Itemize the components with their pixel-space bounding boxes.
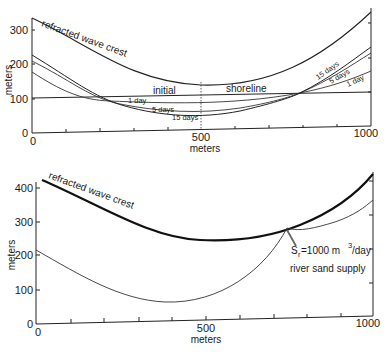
figure: 0 100 200 300 0 500 1000 meters meters r…: [0, 0, 387, 354]
top-x-tick-1000: 1000: [354, 127, 378, 139]
bottom-chart: 0 100 200 300 400 0 500 1000 meters mete…: [6, 170, 380, 345]
bottom-y-tick-0: 0: [27, 318, 33, 330]
bottom-y-tick-100: 100: [15, 284, 33, 296]
top-x-tick-500: 500: [192, 131, 210, 143]
bottom-x-tick-0: 0: [35, 326, 41, 338]
river-sand-supply-label: river sand supply: [290, 263, 366, 274]
top-5-days-label-left: 5 days: [152, 105, 174, 114]
bottom-x-tick-1000: 1000: [356, 317, 380, 329]
initial-label: initial: [153, 85, 176, 96]
top-1-day-label-left: 1 day: [128, 96, 147, 105]
top-15-days-label-left: 15 days: [172, 113, 199, 122]
top-x-tick-0: 0: [30, 135, 36, 147]
top-x-axis-title: meters: [190, 143, 221, 154]
bottom-y-tick-400: 400: [15, 182, 33, 194]
shoreline-label: shoreline: [226, 83, 267, 94]
bottom-x-tick-500: 500: [197, 322, 215, 334]
bottom-x-axis-title: meters: [191, 334, 222, 345]
bottom-y-axis-title: meters: [6, 240, 17, 271]
top-y-tick-0: 0: [22, 127, 28, 139]
bottom-wave-crest-label: refracted wave crest: [47, 170, 136, 211]
bottom-y-tick-200: 200: [15, 249, 33, 261]
top-chart: 0 100 200 300 0 500 1000 meters meters r…: [3, 8, 378, 154]
river-supply-pointer: [287, 230, 296, 246]
top-y-tick-300: 300: [10, 24, 28, 36]
supply-value: =1000 m: [301, 245, 340, 256]
bottom-y-tick-300: 300: [15, 216, 33, 228]
supply-symbol: S: [291, 245, 298, 256]
top-15-days-curve: [32, 47, 371, 116]
top-y-axis-title: meters: [3, 65, 14, 96]
supply-rate-label: S r =1000 m 3 /day: [291, 241, 371, 259]
top-wave-crest-label: refracted wave crest: [40, 18, 129, 59]
supply-unit: /day: [352, 245, 371, 256]
